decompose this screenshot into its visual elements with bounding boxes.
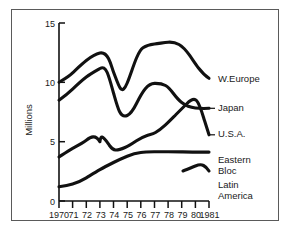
x-tick-label-75: 75 xyxy=(123,210,133,220)
x-axis-tick-labels: 1970 71 72 73 74 75 76 77 78 79 80 1981 xyxy=(49,210,220,220)
x-tick-label-71: 71 xyxy=(68,210,78,220)
y-tick-label-0: 0 xyxy=(50,197,55,207)
series-label-japan: Japan xyxy=(218,102,244,113)
y-tick-label-15: 15 xyxy=(45,19,55,29)
series-label-latin-america-line2: America xyxy=(218,190,254,201)
series-label-eastern-bloc-line1: Eastern xyxy=(218,154,251,165)
figure-border: 15 10 5 0 Millions 1970 71 72 73 74 75 7… xyxy=(11,9,279,221)
x-tick-label-73: 73 xyxy=(96,210,106,220)
series-label-usa: U.S.A. xyxy=(218,128,245,139)
y-axis-tick-labels: 15 10 5 0 xyxy=(45,19,55,207)
line-chart-canvas: 15 10 5 0 Millions 1970 71 72 73 74 75 7… xyxy=(12,10,278,220)
x-tick-label-1970: 1970 xyxy=(49,210,69,220)
x-tick-label-74: 74 xyxy=(109,210,119,220)
x-tick-label-1981: 1981 xyxy=(199,210,219,220)
x-tick-label-72: 72 xyxy=(82,210,92,220)
chart-series-group xyxy=(12,10,209,187)
x-tick-label-77: 77 xyxy=(150,210,160,220)
x-tick-label-78: 78 xyxy=(164,210,174,220)
series-label-w-europe: W.Europe xyxy=(218,73,260,84)
y-tick-label-5: 5 xyxy=(50,137,55,147)
series-label-latin-america-line1: Latin xyxy=(218,179,239,190)
x-tick-label-79: 79 xyxy=(177,210,187,220)
series-line-japan xyxy=(59,68,209,116)
series-label-eastern-bloc-line2: Bloc xyxy=(218,165,237,176)
series-label-leaders xyxy=(209,108,215,135)
x-tick-label-76: 76 xyxy=(137,210,147,220)
series-line-latin-america xyxy=(183,165,209,171)
chart-figure: 15 10 5 0 Millions 1970 71 72 73 74 75 7… xyxy=(0,0,293,234)
series-labels-group: W.Europe Japan U.S.A. Eastern Bloc Latin… xyxy=(218,73,260,201)
y-tick-label-10: 10 xyxy=(45,78,55,88)
y-axis-title: Millions xyxy=(23,104,34,136)
